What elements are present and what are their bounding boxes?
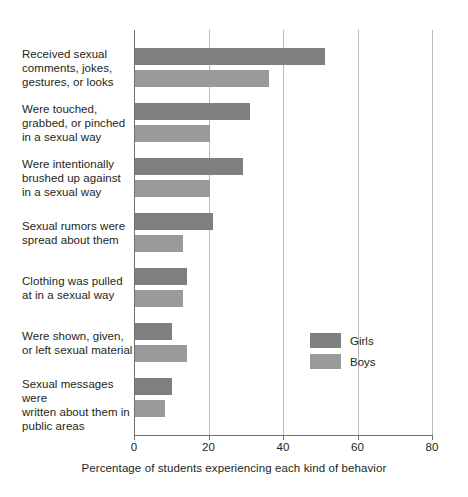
gridline-80 <box>432 30 433 435</box>
tick-mark-20 <box>209 435 210 440</box>
category-label-0: Received sexualcomments, jokes,gestures,… <box>22 47 134 89</box>
legend-label-boys: Boys <box>350 356 376 368</box>
gridline-60 <box>358 30 359 435</box>
category-label-line: Received sexual <box>22 47 134 61</box>
tick-label-0: 0 <box>114 441 154 453</box>
tick-mark-0 <box>134 435 135 440</box>
legend-item-girls[interactable]: Girls <box>310 330 376 351</box>
bar-girls-4 <box>135 268 187 285</box>
category-label-1: Were touched,grabbed, or pinchedin a sex… <box>22 102 134 144</box>
category-label-line: comments, jokes, <box>22 61 134 75</box>
bar-boys-3 <box>135 235 183 252</box>
legend-swatch-boys-icon <box>310 354 341 369</box>
legend-label-girls: Girls <box>350 335 374 347</box>
category-label-line: Clothing was pulled <box>22 274 134 288</box>
legend-item-boys[interactable]: Boys <box>310 351 376 372</box>
bar-boys-1 <box>135 125 210 142</box>
category-label-2: Were intentionallybrushed up againstin a… <box>22 157 134 199</box>
bar-girls-5 <box>135 323 172 340</box>
bar-boys-4 <box>135 290 183 307</box>
category-label-line: Sexual rumors were <box>22 219 134 233</box>
bar-girls-0 <box>135 48 325 65</box>
chart-legend: Girls Boys <box>310 330 376 372</box>
bar-girls-1 <box>135 103 250 120</box>
tick-mark-80 <box>432 435 433 440</box>
bar-girls-6 <box>135 378 172 395</box>
category-label-line: spread about them <box>22 233 134 247</box>
gridline-20 <box>209 30 210 435</box>
tick-label-20: 20 <box>189 441 229 453</box>
category-label-line: gestures, or looks <box>22 75 134 89</box>
gridline-40 <box>283 30 284 435</box>
category-label-line: Were touched, <box>22 102 134 116</box>
plot-area <box>134 30 432 435</box>
category-label-line: at in a sexual way <box>22 288 134 302</box>
y-axis-line <box>134 30 135 435</box>
category-label-6: Sexual messages werewritten about them i… <box>22 377 134 433</box>
category-label-line: written about them in <box>22 405 134 419</box>
tick-label-40: 40 <box>263 441 303 453</box>
bar-girls-2 <box>135 158 243 175</box>
category-label-line: brushed up against <box>22 171 134 185</box>
legend-swatch-girls-icon <box>310 333 341 348</box>
x-axis-title: Percentage of students experiencing each… <box>0 462 468 474</box>
category-label-line: grabbed, or pinched <box>22 116 134 130</box>
bar-boys-5 <box>135 345 187 362</box>
bar-boys-2 <box>135 180 210 197</box>
grouped-bar-chart: 020406080 Received sexualcomments, jokes… <box>0 0 468 497</box>
category-label-4: Clothing was pulledat in a sexual way <box>22 274 134 302</box>
category-label-line: in a sexual way <box>22 130 134 144</box>
bar-boys-6 <box>135 400 165 417</box>
category-label-line: Were intentionally <box>22 157 134 171</box>
bar-girls-3 <box>135 213 213 230</box>
tick-label-80: 80 <box>412 441 452 453</box>
category-label-line: Sexual messages were <box>22 377 134 405</box>
tick-mark-60 <box>358 435 359 440</box>
category-label-line: in a sexual way <box>22 185 134 199</box>
tick-label-60: 60 <box>338 441 378 453</box>
tick-mark-40 <box>283 435 284 440</box>
bar-boys-0 <box>135 70 269 87</box>
category-label-line: or left sexual material <box>22 343 134 357</box>
category-label-3: Sexual rumors werespread about them <box>22 219 134 247</box>
category-label-line: Were shown, given, <box>22 329 134 343</box>
category-label-5: Were shown, given,or left sexual materia… <box>22 329 134 357</box>
category-label-line: public areas <box>22 419 134 433</box>
